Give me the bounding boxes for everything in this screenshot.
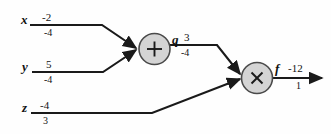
input-label-z: z (22, 101, 27, 114)
input-value-y: 5 (46, 59, 52, 70)
output-gradient-f: 1 (296, 81, 301, 91)
input-gradient-y: -4 (44, 75, 52, 85)
input-gradient-z: 3 (43, 116, 48, 126)
input-value-z: -4 (40, 100, 49, 111)
output-gradient-q: -4 (181, 48, 189, 58)
input-label-y: y (22, 60, 28, 73)
wire-z-to-mul (31, 79, 240, 113)
output-value-f: -12 (288, 63, 303, 74)
output-label-f: f (275, 62, 279, 75)
input-label-x: x (21, 13, 28, 26)
input-gradient-x: -4 (44, 28, 52, 38)
output-label-q: q (172, 33, 179, 46)
computational-graph-figure: x -2 -4 y 5 -4 z -4 3 q 3 -4 f -12 1 (0, 0, 331, 134)
input-value-x: -2 (42, 12, 51, 23)
output-value-q: 3 (184, 32, 190, 43)
